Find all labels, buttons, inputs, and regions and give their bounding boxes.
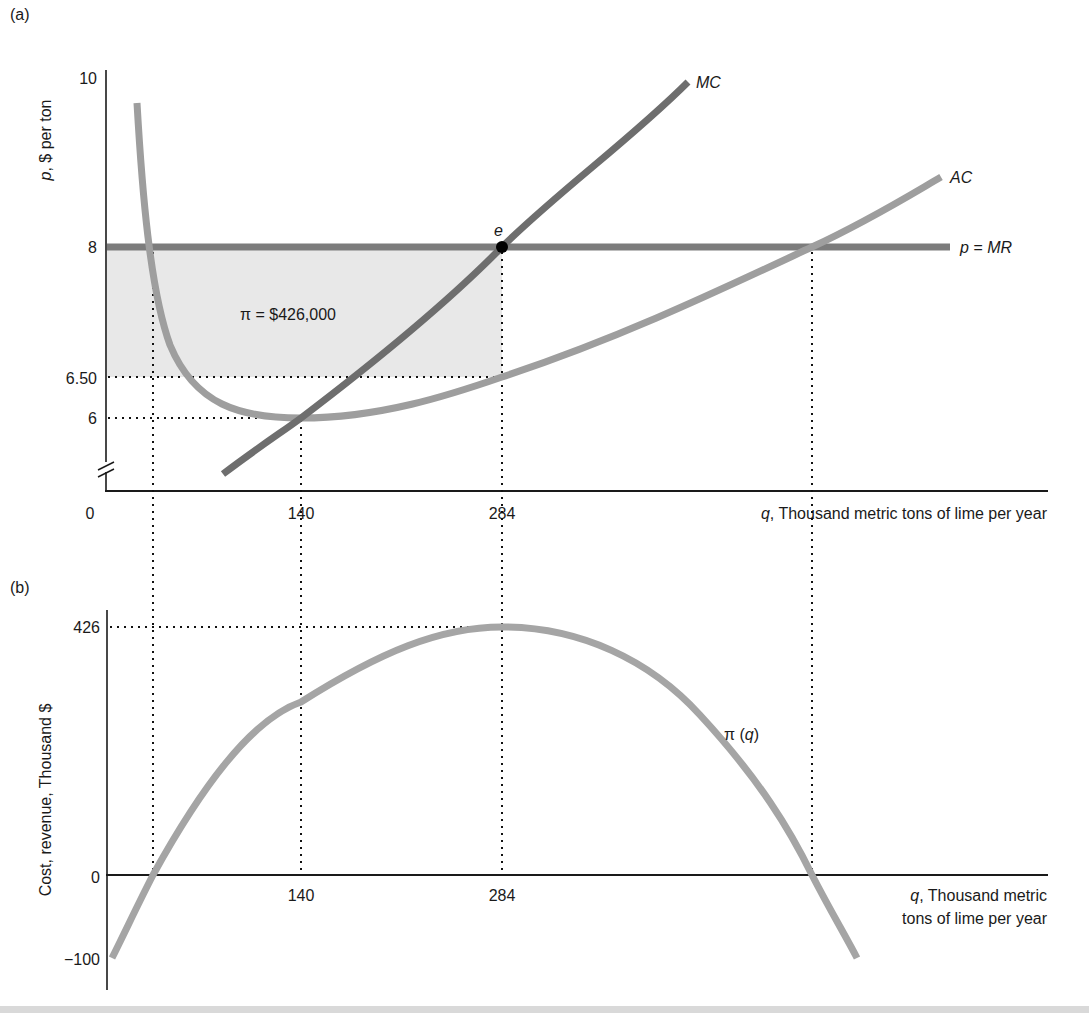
y-tick-0: 0 [91, 869, 100, 886]
panel-a-label: (a) [10, 6, 30, 23]
b-x-tick-140: 140 [288, 887, 315, 904]
panel-a-x-axis-label: q, Thousand metric tons of lime per year [761, 505, 1048, 522]
y-tick-8: 8 [88, 239, 97, 256]
panel-b-label: (b) [10, 579, 30, 596]
x-tick-0: 0 [86, 505, 95, 522]
b-x-tick-284: 284 [489, 887, 516, 904]
y-tick-6: 6 [88, 410, 97, 427]
price-label: p = MR [959, 239, 1012, 256]
profit-curve-label: π (q) [724, 726, 759, 743]
figure: (a) p, $ per ton 10 8 6.50 6 0 140 284 q… [0, 0, 1089, 1013]
equilibrium-point-e [496, 241, 508, 253]
profit-curve [112, 627, 857, 958]
mc-label: MC [696, 74, 721, 91]
page-bottom-edge [0, 1006, 1089, 1013]
ac-label: AC [949, 169, 973, 186]
y-tick-minus-100: −100 [64, 951, 100, 968]
profit-label: π = $426,000 [240, 306, 336, 323]
panel-a-y-axis-label: p, $ per ton [37, 100, 54, 182]
y-tick-10: 10 [79, 70, 97, 87]
panel-b: (b) Cost, revenue, Thousand $ 426 0 −100… [10, 579, 1048, 990]
y-tick-6-50: 6.50 [66, 370, 97, 387]
panel-a: (a) p, $ per ton 10 8 6.50 6 0 140 284 q… [10, 6, 1048, 875]
point-e-label: e [494, 222, 503, 239]
panel-b-y-axis-label: Cost, revenue, Thousand $ [37, 704, 54, 897]
y-tick-426: 426 [73, 619, 100, 636]
panel-b-x-axis-label-line1: q, Thousand metric [910, 887, 1047, 904]
panel-b-x-axis-label-line2: tons of lime per year [902, 910, 1048, 927]
